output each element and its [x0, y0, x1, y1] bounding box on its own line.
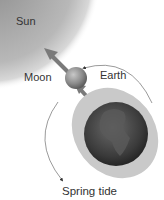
moon — [65, 67, 87, 89]
spring-tide-diagram — [0, 0, 164, 200]
earth-label: Earth — [100, 70, 126, 81]
sun-label: Sun — [16, 16, 36, 27]
diagram-caption: Spring tide — [62, 186, 117, 198]
moon-orbit-arc-lower — [45, 102, 62, 180]
moon-label: Moon — [24, 72, 52, 83]
